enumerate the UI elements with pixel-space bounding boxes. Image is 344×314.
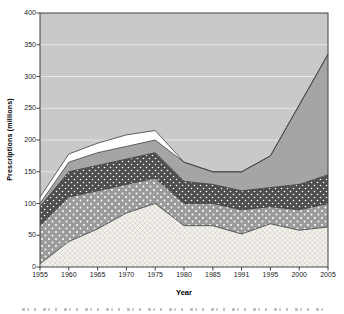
stacked-area-chart: [0, 0, 344, 314]
cut-off-caption-fragment: [22, 308, 324, 311]
prescriptions-stacked-area-figure: Prescriptions (millions) Year 0501001502…: [0, 0, 344, 314]
